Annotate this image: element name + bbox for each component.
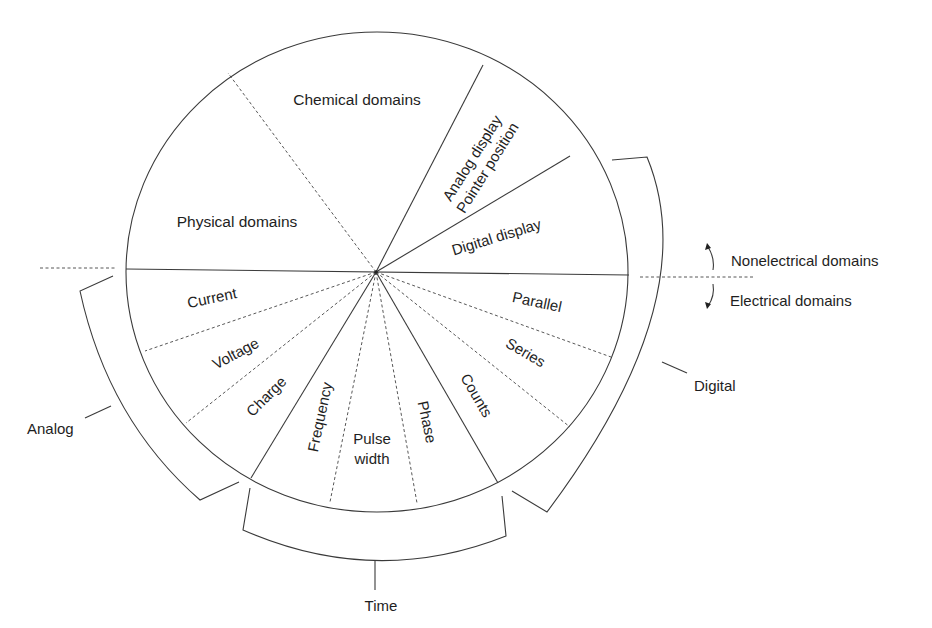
label-digital-group: Digital [694,377,736,394]
label-counts: Counts [458,370,496,420]
label-current: Current [186,284,239,311]
analog-bracket [80,276,239,500]
label-charge: Charge [243,373,290,420]
time-bracket [243,488,506,561]
arrow-up-icon [708,247,713,270]
label-electrical-domains: Electrical domains [730,292,852,309]
label-pulse: Pulse [353,430,391,447]
analog-leader-line [85,406,111,418]
label-series: Series [503,334,548,370]
label-frequency: Frequency [304,380,335,453]
label-time-group: Time [365,597,398,614]
label-width: width [353,450,389,467]
ray-series-parallel [376,272,611,357]
label-digital-display: Digital display [450,215,544,258]
label-physical-domains: Physical domains [177,213,298,230]
label-analog-group: Analog [27,420,74,437]
ray-frequency-pulsewidth [330,272,376,502]
label-phase: Phase [415,399,440,444]
center-point [374,270,378,274]
ray-current-voltage [145,272,376,351]
arrowhead-up-icon [705,243,711,250]
label-chemical-domains: Chemical domains [293,91,421,108]
arrow-down-icon [708,284,713,306]
label-nonelectrical-domains: Nonelectrical domains [731,252,879,269]
label-parallel: Parallel [511,288,563,315]
domain-wheel-diagram: Chemical domains Physical domains Analog… [0,0,932,628]
digital-leader-line [662,362,687,373]
label-voltage: Voltage [209,334,261,373]
